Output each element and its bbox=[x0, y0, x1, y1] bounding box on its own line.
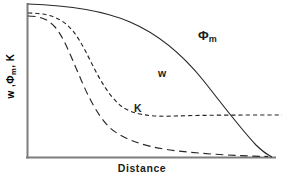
plot-area bbox=[0, 0, 284, 182]
series-label-phi-m: Φm bbox=[198, 29, 217, 44]
curve-w bbox=[28, 13, 282, 116]
series-label-w: w bbox=[158, 68, 166, 79]
x-axis-label: Distance bbox=[0, 163, 284, 174]
curve-k bbox=[28, 16, 268, 157]
y-axis-label-phi-glyph: Φ bbox=[5, 75, 16, 84]
curve-phi-m bbox=[28, 4, 272, 157]
series-label-phi-glyph: Φ bbox=[198, 28, 209, 43]
figure-chart: Φm w K Distance w ,Φm, K bbox=[0, 0, 284, 182]
y-axis-label-phi-subscript: m bbox=[9, 68, 18, 75]
series-label-k: K bbox=[134, 103, 142, 114]
y-axis-label-part-last: , K bbox=[5, 54, 16, 68]
y-axis-label-wrapper: w ,Φm, K bbox=[5, 21, 21, 131]
series-label-phi-subscript: m bbox=[209, 34, 217, 44]
y-axis-label: w ,Φm, K bbox=[5, 21, 18, 131]
y-axis-label-part-first: w , bbox=[5, 84, 16, 99]
